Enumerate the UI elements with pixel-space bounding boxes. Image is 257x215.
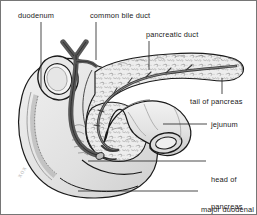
label-head-of-pancreas-line1: head of <box>211 175 243 184</box>
label-jejunum: jejunum <box>211 120 238 129</box>
label-pancreatic-duct: pancreatic duct <box>146 30 198 39</box>
label-duodenum: duodenum <box>18 11 54 20</box>
label-common-bile-duct: common bile duct <box>90 11 150 20</box>
label-major-duodenal-papilla: major duodenal papilla <box>201 187 254 215</box>
label-tail-of-pancreas: tail of pancreas <box>190 97 243 106</box>
anatomy-figure: duodenum common bile duct pancreatic duc… <box>0 0 257 215</box>
label-major-duodenal-papilla-line1: major duodenal <box>201 205 254 214</box>
